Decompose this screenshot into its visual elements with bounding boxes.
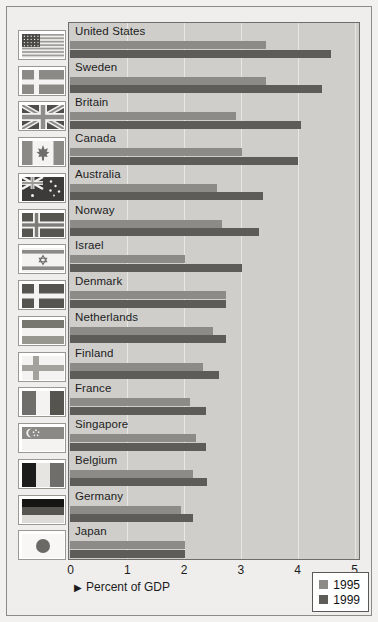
flag-denmark bbox=[18, 280, 66, 310]
bar-1999 bbox=[70, 300, 226, 308]
category-label: Norway bbox=[75, 204, 115, 216]
category-label: France bbox=[75, 382, 111, 394]
legend-label-1995: 1995 bbox=[333, 579, 360, 591]
chart-row: Norway bbox=[69, 202, 359, 238]
bar-1999 bbox=[70, 192, 263, 200]
arrow-right-icon: ▶ bbox=[74, 582, 82, 593]
legend-swatch-1999 bbox=[319, 595, 328, 604]
flag-united-states bbox=[18, 30, 66, 60]
chart-row: Belgium bbox=[69, 452, 359, 488]
bar-1995 bbox=[70, 184, 217, 192]
category-label: Denmark bbox=[75, 275, 122, 287]
flag-britain-glyph bbox=[22, 105, 64, 129]
bar-1995 bbox=[70, 363, 203, 371]
flag-singapore-glyph bbox=[22, 427, 64, 451]
chart-row: Sweden bbox=[69, 59, 359, 95]
bar-1999 bbox=[70, 157, 298, 165]
chart-row: United States bbox=[69, 23, 359, 59]
category-label: Belgium bbox=[75, 454, 117, 466]
chart-row: Canada bbox=[69, 130, 359, 166]
bar-1995 bbox=[70, 470, 193, 478]
flag-canada-glyph bbox=[22, 141, 64, 165]
bar-1995 bbox=[70, 541, 185, 549]
flag-britain bbox=[18, 101, 66, 131]
flag-japan bbox=[18, 530, 66, 560]
flag-netherlands-glyph bbox=[22, 320, 64, 344]
chart-row: Singapore bbox=[69, 416, 359, 452]
category-label: Finland bbox=[75, 347, 113, 359]
x-tick-label: 1 bbox=[124, 563, 131, 577]
chart-row: Germany bbox=[69, 488, 359, 524]
bar-1995 bbox=[70, 434, 196, 442]
plot-area: United StatesSwedenBritainCanadaAustrali… bbox=[68, 22, 360, 560]
bar-1999 bbox=[70, 264, 242, 272]
flag-germany bbox=[18, 495, 66, 525]
bar-1995 bbox=[70, 255, 185, 263]
bar-1995 bbox=[70, 77, 266, 85]
flag-norway-glyph bbox=[22, 213, 64, 237]
flag-australia bbox=[18, 173, 66, 203]
flag-belgium bbox=[18, 459, 66, 489]
flag-sweden bbox=[18, 66, 66, 96]
flag-israel bbox=[18, 244, 66, 274]
legend-entry-1995: 1995 bbox=[319, 577, 360, 592]
bar-1995 bbox=[70, 327, 213, 335]
category-label: Germany bbox=[75, 490, 123, 502]
bar-1995 bbox=[70, 291, 226, 299]
flag-belgium-glyph bbox=[22, 463, 64, 487]
bar-1995 bbox=[70, 220, 222, 228]
x-tick-label: 0 bbox=[67, 563, 74, 577]
chart-page: United StatesSwedenBritainCanadaAustrali… bbox=[0, 0, 378, 622]
category-label: Sweden bbox=[75, 61, 117, 73]
flag-france bbox=[18, 387, 66, 417]
chart-row: Denmark bbox=[69, 273, 359, 309]
legend-label-1999: 1999 bbox=[333, 594, 360, 606]
category-label: Singapore bbox=[75, 418, 128, 430]
bar-1999 bbox=[70, 85, 322, 93]
bar-1995 bbox=[70, 112, 236, 120]
x-tick-label: 4 bbox=[294, 563, 301, 577]
chart-row: Japan bbox=[69, 523, 359, 559]
category-label: Israel bbox=[75, 239, 104, 251]
flag-germany-glyph bbox=[22, 499, 64, 523]
chart-row: France bbox=[69, 380, 359, 416]
bar-1999 bbox=[70, 514, 193, 522]
plot-inner: United StatesSwedenBritainCanadaAustrali… bbox=[69, 23, 359, 559]
legend-swatch-1995 bbox=[319, 580, 328, 589]
bar-1999 bbox=[70, 407, 206, 415]
bar-1999 bbox=[70, 550, 185, 558]
x-axis-title: ▶Percent of GDP bbox=[74, 580, 170, 594]
x-tick-label: 3 bbox=[238, 563, 245, 577]
chart-row: Britain bbox=[69, 94, 359, 130]
flag-united-states-glyph bbox=[22, 34, 64, 58]
flag-canada bbox=[18, 137, 66, 167]
flag-finland-glyph bbox=[22, 356, 64, 380]
category-label: Australia bbox=[75, 168, 121, 180]
legend-entry-1999: 1999 bbox=[319, 592, 360, 607]
chart-row: Australia bbox=[69, 166, 359, 202]
flag-netherlands bbox=[18, 316, 66, 346]
chart-legend: 1995 1999 bbox=[312, 572, 369, 612]
flag-finland bbox=[18, 352, 66, 382]
flag-france-glyph bbox=[22, 391, 64, 415]
chart-row: Finland bbox=[69, 345, 359, 381]
bar-1999 bbox=[70, 335, 226, 343]
bar-1999 bbox=[70, 478, 207, 486]
flag-israel-glyph bbox=[22, 248, 64, 272]
chart-row: Israel bbox=[69, 237, 359, 273]
category-label: Netherlands bbox=[75, 311, 138, 323]
bar-1999 bbox=[70, 371, 219, 379]
chart-row: Netherlands bbox=[69, 309, 359, 345]
flag-denmark-glyph bbox=[22, 284, 64, 308]
category-label: United States bbox=[75, 25, 145, 37]
category-label: Canada bbox=[75, 132, 116, 144]
bar-1999 bbox=[70, 228, 259, 236]
bar-1999 bbox=[70, 50, 331, 58]
x-tick-label: 2 bbox=[181, 563, 188, 577]
flag-norway bbox=[18, 209, 66, 239]
bar-1995 bbox=[70, 506, 181, 514]
flag-japan-glyph bbox=[22, 534, 64, 558]
category-label: Britain bbox=[75, 96, 108, 108]
bar-1995 bbox=[70, 41, 266, 49]
flag-singapore bbox=[18, 423, 66, 453]
